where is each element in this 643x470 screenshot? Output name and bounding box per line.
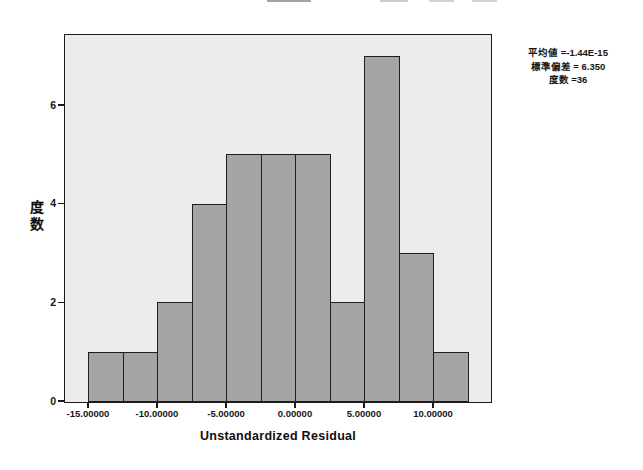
y-tick-mark (58, 400, 65, 401)
histogram-page: -15.00000-10.00000-5.000000.000005.00000… (0, 0, 643, 470)
x-axis-title: Unstandardized Residual (64, 429, 492, 443)
histogram-bar (399, 253, 434, 402)
y-tick-mark (58, 203, 65, 204)
x-tick-label: 0.00000 (260, 408, 330, 419)
histogram-bar (330, 302, 365, 402)
stats-mean: 平均値 =-1.44E-15 (498, 46, 638, 60)
y-tick-label: 0 (32, 395, 56, 407)
cropped-title-fragment (267, 0, 311, 2)
histogram-bar (157, 302, 193, 402)
y-tick-label: 6 (32, 99, 56, 111)
histogram-bar (433, 352, 469, 402)
x-tick-label: -5.00000 (191, 408, 261, 419)
stats-annotation: 平均値 =-1.44E-15 標準偏差 = 6.350 度数 =36 (498, 46, 638, 87)
histogram-bar (295, 154, 331, 402)
y-tick-mark (58, 302, 65, 303)
x-tick-label: 5.00000 (329, 408, 399, 419)
y-tick-mark (58, 104, 65, 105)
histogram-bar (261, 154, 296, 402)
histogram-bar (192, 204, 227, 402)
cropped-title-fragment (472, 0, 497, 2)
stats-n: 度数 =36 (498, 73, 638, 87)
stats-stddev: 標準偏差 = 6.350 (498, 60, 638, 74)
y-axis-title: 度数 (26, 200, 46, 234)
cropped-title-fragment (429, 0, 454, 2)
y-tick-label: 2 (32, 296, 56, 308)
histogram-bar (123, 352, 158, 402)
histogram-bar (226, 154, 262, 402)
x-tick-label: 10.00000 (398, 408, 468, 419)
histogram-bar (88, 352, 124, 402)
cropped-title-fragment (380, 0, 408, 2)
x-tick-label: -15.00000 (53, 408, 123, 419)
histogram-bar (364, 56, 400, 402)
x-tick-label: -10.00000 (122, 408, 192, 419)
